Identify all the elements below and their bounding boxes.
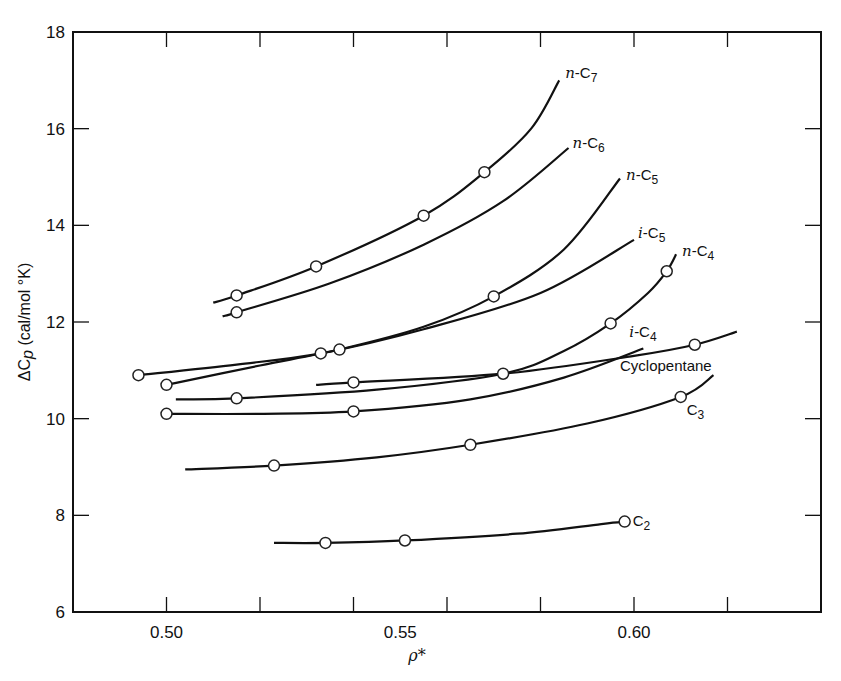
plot-axes: 0.500.550.60681012141618 <box>46 23 821 642</box>
data-point-n-c5 <box>488 291 499 302</box>
curve-i-c5 <box>138 240 634 375</box>
y-tick-label: 16 <box>46 120 65 139</box>
data-point-c2 <box>399 535 410 546</box>
x-tick-label: 0.55 <box>384 623 417 642</box>
series-label-n-c6: n-C6 <box>573 134 606 155</box>
y-axis-title: ΔCp (cal/mol °K) <box>16 263 36 381</box>
series-label-c2: C2 <box>633 512 651 533</box>
y-axis-title-delta: ΔC <box>16 359 33 381</box>
data-curves <box>138 80 736 543</box>
data-point-cyclopentane <box>348 377 359 388</box>
data-point-n-c7 <box>231 290 242 301</box>
series-label-i-c4: i-C4 <box>629 323 657 344</box>
y-tick-label: 10 <box>46 410 65 429</box>
data-point-c3 <box>675 391 686 402</box>
data-point-i-c4 <box>161 408 172 419</box>
data-point-n-c6 <box>231 307 242 318</box>
curve-c3 <box>185 375 713 469</box>
series-label-cyclopentane: Cyclopentane <box>620 357 712 374</box>
data-point-cyclopentane <box>689 339 700 350</box>
data-point-n-c4 <box>661 266 672 277</box>
curve-n-c6 <box>223 148 569 316</box>
data-point-c2 <box>320 537 331 548</box>
data-point-n-c4 <box>498 368 509 379</box>
y-axis-title-p: p <box>19 350 36 360</box>
y-tick-label: 6 <box>56 603 65 622</box>
y-tick-label: 18 <box>46 23 65 42</box>
y-tick-label: 8 <box>56 506 65 525</box>
data-point-c2 <box>619 516 630 527</box>
x-axis-title: ρ* <box>407 646 425 665</box>
series-label-c3: C3 <box>687 401 705 422</box>
data-point-c3 <box>269 460 280 471</box>
series-label-i-c5: i-C5 <box>638 224 666 245</box>
data-points <box>133 167 700 549</box>
y-axis-title-units: (cal/mol °K) <box>16 263 33 350</box>
series-label-n-c7: n-C7 <box>565 64 598 85</box>
y-tick-label: 12 <box>46 313 65 332</box>
data-point-n-c5 <box>161 379 172 390</box>
series-label-n-c4: n-C4 <box>682 242 715 263</box>
data-point-n-c7 <box>479 167 490 178</box>
series-label-n-c5: n-C5 <box>626 166 659 187</box>
data-point-n-c7 <box>311 261 322 272</box>
curve-n-c5 <box>167 178 620 384</box>
x-tick-label: 0.60 <box>617 623 650 642</box>
data-point-i-c5 <box>315 348 326 359</box>
data-point-i-c5 <box>133 370 144 381</box>
y-tick-label: 14 <box>46 216 65 235</box>
data-point-n-c7 <box>418 210 429 221</box>
data-point-n-c5 <box>334 344 345 355</box>
data-point-n-c4 <box>605 318 616 329</box>
series-labels: n-C7n-C6n-C5i-C5n-C4i-C4CyclopentaneC3C2 <box>565 64 714 532</box>
curve-n-c7 <box>213 80 559 302</box>
data-point-i-c4 <box>348 406 359 417</box>
chart: 0.500.550.60681012141618 n-C7n-C6n-C5i-C… <box>0 0 841 681</box>
x-tick-label: 0.50 <box>150 623 183 642</box>
data-point-n-c4 <box>231 393 242 404</box>
data-point-c3 <box>465 439 476 450</box>
